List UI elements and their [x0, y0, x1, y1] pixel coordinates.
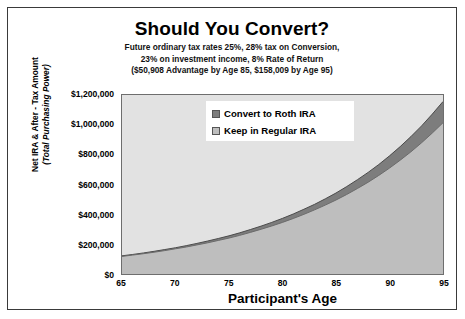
chart-legend: Convert to Roth IRA Keep in Regular IRA — [206, 101, 354, 141]
chart-subtitle-line-1: Future ordinary tax rates 25%, 28% tax o… — [8, 42, 456, 54]
y-axis-tick-labels: $0$200,000$400,000$600,000$800,000$1,000… — [44, 94, 118, 275]
chart-title: Should You Convert? — [8, 18, 456, 40]
x-axis-tick-0: 65 — [116, 278, 126, 288]
y-axis-tick-6: $1,200,000 — [71, 89, 114, 99]
legend-item-convert-to-roth-ira: Convert to Roth IRA — [212, 105, 348, 122]
x-axis-title: Participant's Age — [121, 291, 444, 306]
x-axis-tick-6: 95 — [439, 278, 449, 288]
legend-label-convert-to-roth-ira: Convert to Roth IRA — [224, 108, 316, 119]
y-axis-title-line-1: Net IRA & After - Tax Amount — [30, 35, 41, 195]
y-axis-tick-4: $800,000 — [78, 149, 114, 159]
area-keep-in-regular-ira — [122, 123, 443, 274]
y-axis-tick-5: $1,000,000 — [71, 119, 114, 129]
chart-subtitle-line-2: 23% on investment income, 8% Rate of Ret… — [8, 54, 456, 66]
chart-subtitle-line-3: ($50,908 Advantage by Age 85, $158,009 b… — [8, 65, 456, 77]
y-axis-tick-2: $400,000 — [78, 210, 114, 220]
y-axis-tick-3: $600,000 — [78, 180, 114, 190]
chart-subtitle: Future ordinary tax rates 25%, 28% tax o… — [8, 42, 456, 77]
x-axis-tick-2: 75 — [224, 278, 234, 288]
legend-swatch-convert-to-roth-ira — [212, 110, 220, 118]
x-axis-tick-5: 90 — [385, 278, 395, 288]
legend-label-keep-in-regular-ira: Keep in Regular IRA — [224, 125, 316, 136]
x-axis-tick-4: 85 — [332, 278, 342, 288]
legend-swatch-keep-in-regular-ira — [212, 127, 220, 135]
y-axis-tick-0: $0 — [104, 270, 114, 280]
x-axis-tick-labels: 65707580859095 — [121, 278, 444, 292]
chart-frame: Should You Convert? Future ordinary tax … — [7, 7, 457, 310]
x-axis-tick-3: 80 — [278, 278, 288, 288]
x-axis-tick-1: 70 — [170, 278, 180, 288]
legend-item-keep-in-regular-ira: Keep in Regular IRA — [212, 122, 348, 139]
y-axis-tick-1: $200,000 — [78, 240, 114, 250]
